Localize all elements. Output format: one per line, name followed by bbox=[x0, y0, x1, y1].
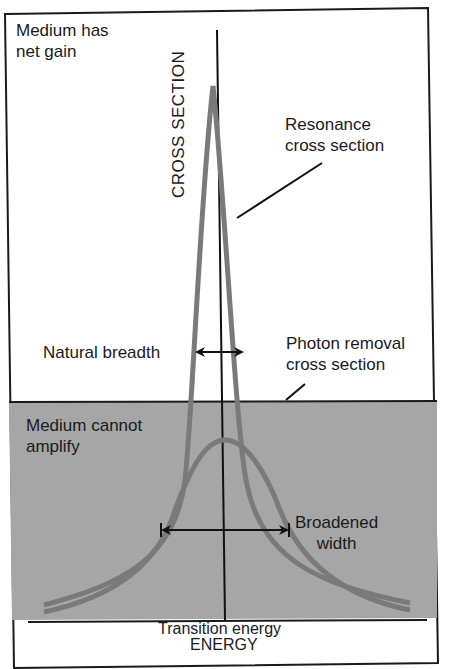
label-photon-removal-cross-section: Photon removal cross section bbox=[286, 333, 405, 375]
label-natural-breadth: Natural breadth bbox=[43, 342, 160, 363]
label-medium-cannot-amplify: Medium cannot amplify bbox=[26, 415, 142, 457]
label-medium-net-gain: Medium has net gain bbox=[16, 20, 109, 62]
cross-section-diagram: Medium has net gain CROSS SECTION Resona… bbox=[0, 0, 451, 669]
label-resonance-cross-section: Resonance cross section bbox=[285, 114, 384, 156]
label-broadened-width: Broadened width bbox=[295, 512, 378, 554]
y-axis-label: CROSS SECTION bbox=[169, 51, 189, 198]
x-axis-label: ENERGY bbox=[190, 636, 258, 654]
